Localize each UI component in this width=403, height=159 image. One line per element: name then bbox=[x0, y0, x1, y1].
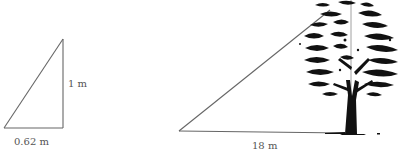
large-triangle bbox=[179, 0, 351, 133]
small-triangle-base-label: 0.62 m bbox=[14, 136, 49, 147]
diagram-canvas bbox=[0, 0, 403, 159]
small-triangle bbox=[4, 39, 63, 128]
large-triangle-base bbox=[179, 131, 345, 133]
tree-icon bbox=[299, 1, 398, 135]
small-triangle-height-label: 1 m bbox=[68, 78, 87, 89]
large-triangle-base-label: 18 m bbox=[252, 140, 277, 151]
small-triangle-hypotenuse bbox=[4, 39, 63, 128]
large-triangle-hypotenuse bbox=[179, 10, 330, 131]
